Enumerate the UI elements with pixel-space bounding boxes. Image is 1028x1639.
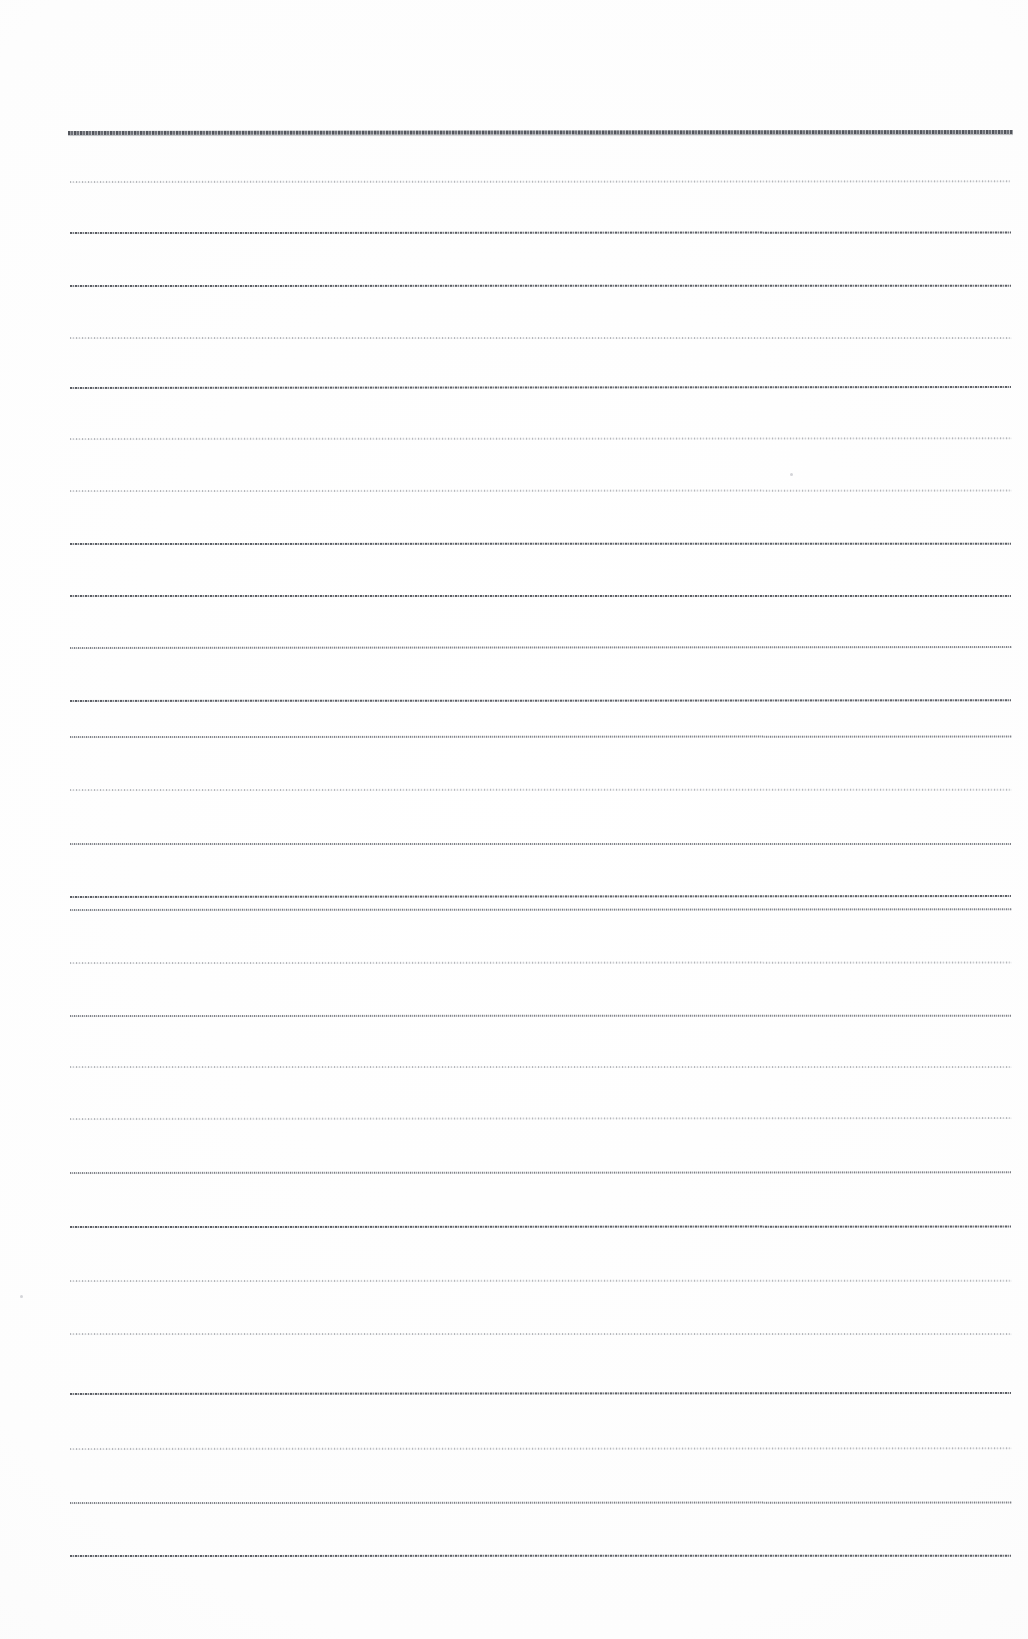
scan-speck <box>20 1295 23 1298</box>
ruled-line <box>70 180 1010 183</box>
ruled-line <box>70 543 1011 545</box>
ruled-line <box>70 961 1012 964</box>
ruled-line <box>70 843 1011 845</box>
ruled-line <box>70 1555 1011 1557</box>
ruled-lines-layer <box>0 0 1028 1639</box>
ruled-line <box>70 1447 1012 1450</box>
ruled-line <box>70 1280 1012 1282</box>
ruled-line <box>70 437 1012 440</box>
ruled-line <box>70 231 1011 234</box>
ruled-line <box>70 646 1012 649</box>
scan-speck <box>790 473 793 476</box>
ruled-line <box>70 1117 1012 1120</box>
ruled-line <box>70 1501 1012 1504</box>
ruled-line <box>70 1066 1012 1068</box>
ruled-line <box>70 337 1012 339</box>
ruled-line <box>70 489 1012 492</box>
ruled-line <box>70 735 1012 738</box>
ruled-line <box>70 895 1011 898</box>
ruled-line <box>70 908 1012 911</box>
scanned-page <box>0 0 1028 1639</box>
ruled-line <box>70 789 1012 791</box>
header-rule <box>68 130 1013 135</box>
ruled-line <box>70 1015 1011 1017</box>
ruled-line <box>70 595 1011 597</box>
ruled-line <box>70 1171 1011 1174</box>
ruled-line <box>70 1392 1011 1395</box>
paper-surface <box>0 0 1028 1639</box>
ruled-line <box>70 1333 1012 1335</box>
ruled-line <box>70 1225 1011 1228</box>
ruled-line <box>70 285 1011 287</box>
ruled-line <box>70 386 1011 389</box>
ruled-line <box>70 699 1011 702</box>
